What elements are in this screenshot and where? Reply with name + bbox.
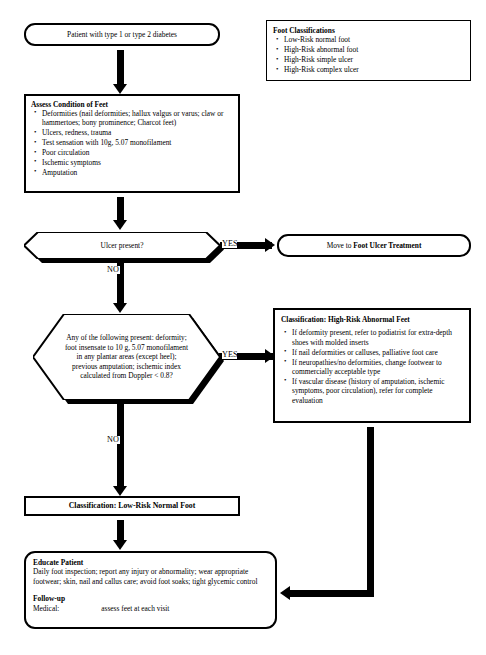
edge-label-ulcer-no: NO [106, 266, 120, 274]
assess-heading: Assess Condition of Feet [31, 100, 233, 109]
node-educate-patient: Educate Patient Daily foot inspection; r… [24, 551, 277, 629]
legend-list: Low-Risk normal foot High-Risk abnormal … [273, 35, 464, 74]
educate-body: Daily foot inspection; report any injury… [33, 567, 268, 586]
list-item: If nail deformities or calluses, palliat… [292, 348, 463, 357]
list-item: Low-Risk normal foot [284, 35, 464, 44]
node-low-risk: Classification: Low-Risk Normal Foot [24, 496, 240, 516]
list-item: Ulcers, redness, trauma [42, 128, 233, 137]
list-item: Ischemic symptoms [42, 158, 233, 167]
edge-label-risk-no: NO [106, 436, 120, 444]
list-item: High-Risk complex ulcer [284, 65, 464, 74]
list-item: If deformity present, refer to podiatris… [292, 328, 463, 347]
arrowhead-down [113, 486, 127, 496]
assess-list: Deformities (nail deformities; hallux va… [31, 109, 233, 177]
high-risk-list: If deformity present, refer to podiatris… [281, 328, 463, 405]
list-item: High-Risk abnormal foot [284, 45, 464, 54]
node-ulcer-treatment: Move to Foot Ulcer Treatment [277, 234, 471, 257]
followup-label: Medical: [33, 604, 59, 613]
list-item: Deformities (nail deformities; hallux va… [42, 109, 233, 128]
high-risk-heading: Classification: High-Risk Abnormal Feet [281, 315, 463, 324]
list-item: If vascular disease (history of amputati… [292, 377, 463, 405]
arrowhead-down [113, 220, 127, 230]
followup-heading: Follow-up [33, 594, 268, 603]
node-start: Patient with type 1 or type 2 diabetes [24, 23, 220, 46]
list-item: If neuropathies/no deformities, change f… [292, 358, 463, 377]
legend-box: Foot Classifications Low-Risk normal foo… [266, 20, 471, 81]
list-item: Amputation [42, 168, 233, 177]
connector-high-risk-down [367, 427, 374, 597]
node-ulcer-decision: Ulcer present? [24, 232, 220, 259]
arrowhead-left [280, 586, 290, 600]
arrowhead-down [113, 84, 127, 94]
risk-decision-label: Any of the following present: deformity;… [65, 314, 188, 400]
node-start-label: Patient with type 1 or type 2 diabetes [67, 30, 177, 39]
low-risk-heading: Classification: Low-Risk Normal Foot [69, 501, 196, 511]
edge-label-ulcer-yes: YES [222, 240, 237, 248]
connector-low-risk-to-educate [117, 520, 124, 542]
arrowhead-right [265, 238, 275, 252]
arrowhead-down [113, 303, 127, 313]
followup-value: assess feet at each visit [101, 604, 169, 613]
connector-assess-to-ulcer [117, 197, 124, 222]
ulcer-decision-label: Ulcer present? [48, 232, 197, 259]
node-high-risk: Classification: High-Risk Abnormal Feet … [273, 308, 471, 423]
legend-heading: Foot Classifications [273, 26, 464, 35]
node-risk-decision: Any of the following present: deformity;… [33, 314, 220, 400]
node-assess-condition: Assess Condition of Feet Deformities (na… [24, 94, 240, 193]
arrowhead-down [113, 540, 127, 550]
educate-heading: Educate Patient [33, 558, 268, 567]
list-item: Test sensation with 10g, 5.07 monofilame… [42, 138, 233, 147]
list-item: Poor circulation [42, 148, 233, 157]
edge-label-risk-yes: YES [222, 351, 237, 359]
ulcer-treatment-label: Move to Foot Ulcer Treatment [327, 241, 422, 250]
list-item: High-Risk simple ulcer [284, 55, 464, 64]
flowchart-canvas: Foot Classifications Low-Risk normal foo… [0, 0, 486, 655]
connector-high-risk-left [290, 590, 374, 597]
followup-row: Medical:assess feet at each visit [33, 604, 268, 613]
connector-start-to-assess [117, 50, 124, 86]
